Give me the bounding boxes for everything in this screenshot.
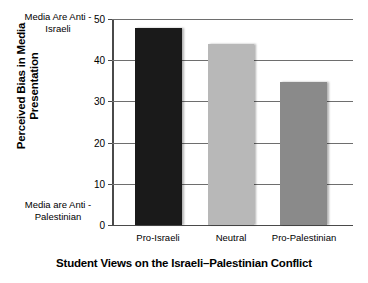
- tick-30: [108, 101, 112, 102]
- x-axis-title: Student Views on the Israeli–Palestinian…: [0, 257, 368, 269]
- category-label-neutral: Neutral: [216, 232, 247, 243]
- gridline-0: 0: [112, 225, 353, 226]
- category-label-pro-palestinian: Pro-Palestinian: [272, 232, 336, 243]
- tick-label-10: 10: [94, 178, 105, 189]
- anchor-label-high: Media Are Anti - Israeli: [10, 11, 106, 35]
- tick-label-30: 30: [94, 96, 105, 107]
- y-axis-title-line-2: Presentation: [28, 52, 41, 119]
- category-label-pro-israeli: Pro-Israeli: [136, 232, 179, 243]
- tick-50: [108, 19, 112, 20]
- anchor-label-low: Media are Anti - Palestinian: [10, 199, 106, 223]
- bar-pro-israeli: [135, 28, 182, 225]
- anchor-label-high-line-1: Media Are Anti -: [10, 11, 106, 23]
- anchor-label-low-line-2: Palestinian: [10, 211, 106, 223]
- tick-label-0: 0: [99, 220, 105, 231]
- bar-pro-palestinian: [280, 82, 327, 225]
- plot-area: 50 40 30 20 10 0: [112, 19, 353, 225]
- tick-40: [108, 60, 112, 61]
- tick-label-50: 50: [94, 14, 105, 25]
- tick-10: [108, 184, 112, 185]
- bar-chart: Perceived Bias in Media Presentation Med…: [0, 0, 368, 283]
- anchor-label-low-line-1: Media are Anti -: [10, 199, 106, 211]
- bar-neutral: [208, 44, 254, 225]
- tick-20: [108, 143, 112, 144]
- tick-label-20: 20: [94, 137, 105, 148]
- y-axis-title-line-1: Perceived Bias in Media: [15, 23, 28, 149]
- y-axis-line: [112, 19, 114, 225]
- gridline-50: 50: [112, 19, 353, 20]
- tick-label-40: 40: [94, 55, 105, 66]
- anchor-label-high-line-2: Israeli: [10, 23, 106, 35]
- tick-0: [108, 225, 112, 226]
